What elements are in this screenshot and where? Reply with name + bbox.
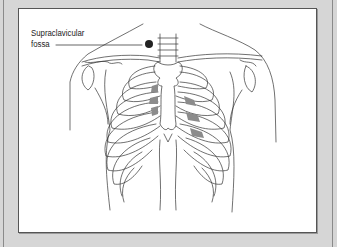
cervical-spine [158,34,178,62]
thoracic-spine [159,140,176,210]
clavicles [82,54,262,66]
ribs-right [176,66,231,202]
supraclavicular-fossa-marker [145,40,153,48]
label-line-1: Supraclavicular [31,28,84,39]
supraclavicular-fossa-label: Supraclavicular fossa [31,28,84,49]
body-outline [70,24,276,212]
label-line-2: fossa [31,39,84,50]
ribs-left [105,66,160,202]
